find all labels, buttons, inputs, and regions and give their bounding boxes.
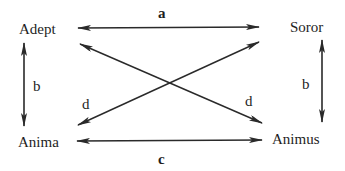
edge-label-d-left: d	[82, 96, 90, 112]
node-adept: Adept	[19, 21, 56, 37]
edge-label-a: a	[158, 5, 166, 21]
edge-a-adept-soror-arrow	[78, 27, 259, 28]
node-anima: Anima	[18, 134, 59, 150]
edge-c-anima-animus-arrow	[77, 140, 262, 141]
node-animus: Animus	[272, 131, 320, 147]
edge-label-b-left: b	[33, 78, 41, 94]
edge-label-c: c	[158, 151, 165, 167]
edge-label-d-right: d	[245, 93, 253, 109]
edge-label-b-right: b	[302, 76, 310, 92]
node-soror: Soror	[290, 19, 323, 35]
quaternio-diagram: Adept Soror Anima Animus a b b c d d	[0, 0, 345, 171]
